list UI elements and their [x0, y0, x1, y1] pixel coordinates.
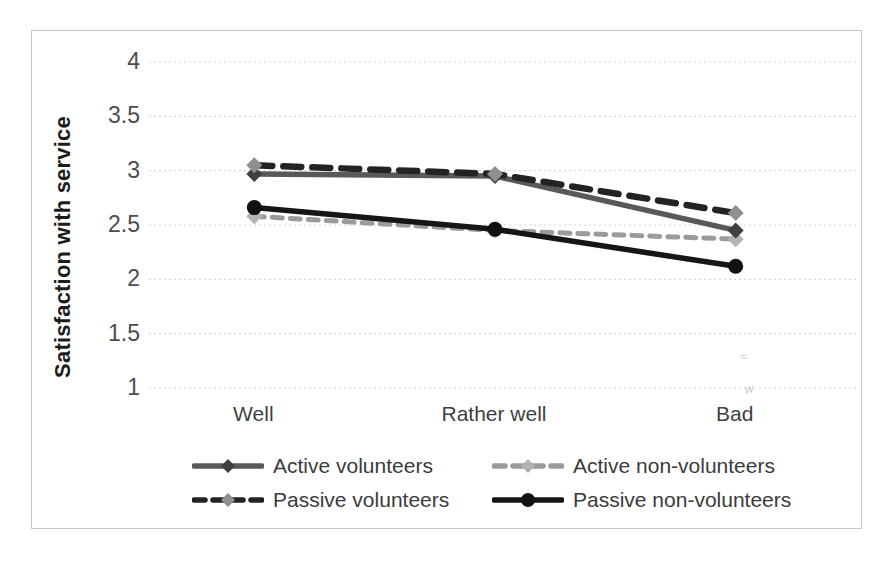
- scanned-figure: ≈ 𝑤 Satisfaction with service 43.532.521…: [0, 0, 895, 564]
- legend-row: Passive volunteers Passive non-volunteer…: [192, 483, 792, 517]
- legend-label: Passive volunteers: [273, 488, 449, 512]
- legend-line-sample-icon: [492, 457, 564, 475]
- x-axis-label: Well: [143, 402, 363, 426]
- x-axis-label: Rather well: [384, 402, 604, 426]
- legend-line-sample-icon: [192, 491, 264, 509]
- legend-marker: [521, 459, 535, 473]
- marker-passive-non-volunteers: [728, 259, 743, 274]
- legend-label: Active volunteers: [273, 454, 433, 478]
- y-tick-label: 3: [60, 156, 140, 184]
- legend-marker: [221, 493, 235, 507]
- y-tick-label: 4: [60, 47, 140, 75]
- x-axis-label: Bad: [625, 402, 845, 426]
- legend-line-sample-icon: [192, 457, 264, 475]
- legend-item-passive-non-volunteers: Passive non-volunteers: [492, 488, 791, 512]
- chart-legend: Active volunteers Active non-volunteers …: [192, 449, 792, 517]
- y-tick-label: 1.5: [60, 319, 140, 347]
- legend-line-sample-icon: [492, 491, 564, 509]
- legend-label: Active non-volunteers: [573, 454, 775, 478]
- marker-passive-non-volunteers: [247, 200, 262, 215]
- marker-passive-volunteers: [728, 205, 744, 221]
- legend-label: Passive non-volunteers: [573, 488, 791, 512]
- y-tick-label: 2: [60, 264, 140, 292]
- legend-item-passive-volunteers: Passive volunteers: [192, 488, 492, 512]
- legend-marker: [521, 493, 535, 507]
- legend-item-active-non-volunteers: Active non-volunteers: [492, 454, 775, 478]
- y-tick-label: 3.5: [60, 101, 140, 129]
- legend-marker: [221, 459, 235, 473]
- legend-row: Active volunteers Active non-volunteers: [192, 449, 792, 483]
- y-tick-label: 2.5: [60, 210, 140, 238]
- marker-passive-non-volunteers: [488, 222, 503, 237]
- y-tick-label: 1: [60, 373, 140, 401]
- legend-item-active-volunteers: Active volunteers: [192, 454, 492, 478]
